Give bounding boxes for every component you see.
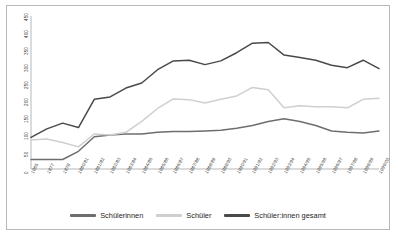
legend-item[interactable]: Schülerinnen (70, 211, 143, 220)
series-line (31, 87, 379, 146)
series-line (31, 43, 379, 138)
legend-color-swatch (156, 214, 182, 216)
y-axis-tick-label: 350 (24, 47, 29, 55)
legend-label: Schülerinnen (100, 211, 143, 220)
legend-label: Schüler (186, 211, 211, 220)
series-line (31, 119, 379, 160)
legend-label: Schüler:innen gesamt (254, 211, 326, 220)
y-axis-tick-label: 100 (24, 132, 29, 140)
y-axis-tick-label: 0 (24, 171, 29, 174)
legend-item[interactable]: Schüler:innen gesamt (224, 211, 326, 220)
legend-color-swatch (224, 214, 250, 216)
chart-legend: SchülerinnenSchülerSchüler:innen gesamt (7, 211, 389, 220)
chart-frame: 050100150200250300350400450 196518771878… (6, 5, 390, 230)
legend-item[interactable]: Schüler (156, 211, 211, 220)
y-axis-tick-label: 250 (24, 81, 29, 89)
plot-area: 050100150200250300350400450 196518771878… (7, 6, 389, 229)
y-axis-tick-label: 50 (24, 152, 29, 157)
y-axis-tick-label: 150 (24, 115, 29, 123)
line-chart-svg (7, 6, 391, 231)
y-axis-tick-label: 450 (24, 13, 29, 21)
y-axis-tick-label: 400 (24, 30, 29, 38)
y-axis-tick-label: 200 (24, 98, 29, 106)
legend-color-swatch (70, 214, 96, 216)
y-axis-tick-label: 300 (24, 64, 29, 72)
